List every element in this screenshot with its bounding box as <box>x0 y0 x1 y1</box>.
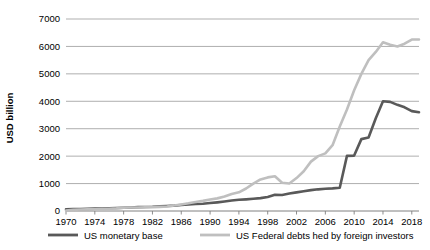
y-tick-label: 5000 <box>39 68 60 79</box>
y-tick-label: 2000 <box>39 151 60 162</box>
y-tick-label: 0 <box>55 205 60 216</box>
legend-label: US Federal debts hed by foreign investor… <box>236 230 414 241</box>
x-tick-label: 1970 <box>55 216 76 227</box>
y-axis-title: USD billion <box>4 92 15 143</box>
x-axis-tick-labels: 1970197419781982198619901994199820022006… <box>55 216 422 227</box>
chart-container: 01000200030004000500060007000 1970197419… <box>0 0 430 250</box>
y-tick-label: 3000 <box>39 123 60 134</box>
x-tick-label: 2006 <box>315 216 336 227</box>
y-tick-label: 1000 <box>39 178 60 189</box>
y-tick-label: 7000 <box>39 13 60 24</box>
x-tick-label: 1974 <box>84 216 105 227</box>
plot-background <box>66 19 419 211</box>
x-tick-label: 1994 <box>228 216 249 227</box>
chart-legend: US monetary baseUS Federal debts hed by … <box>48 230 414 241</box>
y-tick-label: 4000 <box>39 96 60 107</box>
x-tick-label: 1982 <box>142 216 163 227</box>
y-axis-title-text: USD billion <box>4 92 15 143</box>
x-tick-label: 1998 <box>257 216 278 227</box>
x-tick-label: 2014 <box>372 216 393 227</box>
x-tick-label: 2018 <box>401 216 422 227</box>
x-tick-label: 1986 <box>171 216 192 227</box>
line-chart: 01000200030004000500060007000 1970197419… <box>0 0 430 250</box>
x-tick-label: 2002 <box>286 216 307 227</box>
x-tick-label: 2010 <box>344 216 365 227</box>
legend-label: US monetary base <box>84 230 163 241</box>
y-axis-tick-labels: 01000200030004000500060007000 <box>39 13 60 216</box>
x-axis-ticks <box>66 211 412 215</box>
x-tick-label: 1990 <box>200 216 221 227</box>
x-tick-label: 1978 <box>113 216 134 227</box>
y-tick-label: 6000 <box>39 41 60 52</box>
